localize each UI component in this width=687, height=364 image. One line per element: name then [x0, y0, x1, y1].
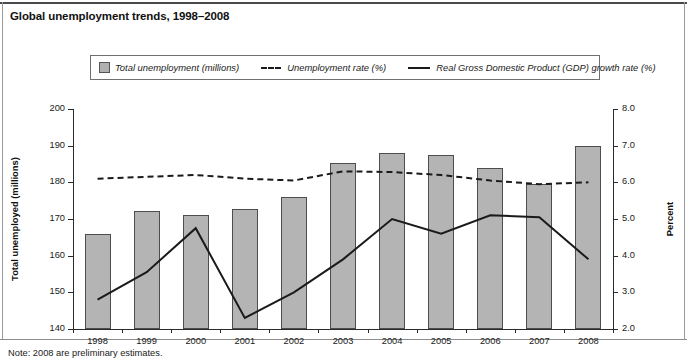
x-tick-mark — [368, 329, 369, 333]
x-tick-mark — [318, 329, 319, 333]
right-tick-label: 6.0 — [622, 176, 635, 186]
x-tick-label-2008: 2008 — [578, 336, 599, 346]
left-tick-label: 170 — [49, 213, 65, 223]
right-tick-label: 8.0 — [622, 103, 635, 113]
right-tick-label: 3.0 — [622, 286, 635, 296]
chart-page: Global unemployment trends, 1998–2008 To… — [0, 0, 687, 364]
left-tick-mark — [68, 182, 73, 183]
bar-1999 — [134, 211, 160, 329]
left-tick-label: 190 — [49, 140, 65, 150]
right-tick-mark — [613, 219, 618, 220]
left-tick-mark — [68, 292, 73, 293]
x-tick-label-2002: 2002 — [284, 336, 305, 346]
chart-title: Global unemployment trends, 1998–2008 — [10, 10, 229, 22]
x-tick-mark — [220, 329, 221, 333]
x-tick-label-2004: 2004 — [382, 336, 403, 346]
right-tick-mark — [613, 146, 618, 147]
x-tick-label-2000: 2000 — [185, 336, 206, 346]
x-tick-label-1998: 1998 — [87, 336, 108, 346]
right-border-rule — [684, 2, 685, 339]
bar-2004 — [379, 153, 405, 329]
x-tick-label-2003: 2003 — [333, 336, 354, 346]
bar-2002 — [281, 197, 307, 329]
x-tick-mark — [171, 329, 172, 333]
x-tick-mark — [515, 329, 516, 333]
bar-swatch-icon — [99, 62, 110, 73]
bar-2007 — [526, 184, 552, 329]
legend-label-unemployment-rate: Unemployment rate (%) — [287, 62, 386, 73]
left-tick-label: 160 — [49, 250, 65, 260]
x-tick-mark — [269, 329, 270, 333]
right-tick-label: 7.0 — [622, 140, 635, 150]
left-border-rule — [2, 2, 3, 339]
right-axis-title: Percent — [664, 202, 675, 236]
bar-2008 — [575, 146, 601, 329]
dashed-line-swatch-icon — [261, 67, 281, 69]
bottom-axis-line — [73, 329, 614, 330]
top-border-rule — [0, 2, 687, 4]
bar-2005 — [428, 155, 454, 329]
legend-item-gdp-growth: Real Gross Domestic Product (GDP) growth… — [408, 62, 655, 73]
legend-label-gdp-growth: Real Gross Domestic Product (GDP) growth… — [436, 62, 655, 73]
left-tick-mark — [68, 219, 73, 220]
left-tick-mark — [68, 109, 73, 110]
bar-2006 — [477, 168, 503, 329]
x-tick-label-2007: 2007 — [529, 336, 550, 346]
x-tick-mark — [122, 329, 123, 333]
legend-item-total-unemployment: Total unemployment (millions) — [99, 62, 239, 73]
bar-1998 — [85, 234, 111, 329]
right-tick-mark — [613, 182, 618, 183]
x-tick-label-2001: 2001 — [234, 336, 255, 346]
right-tick-label: 4.0 — [622, 250, 635, 260]
left-tick-label: 150 — [49, 286, 65, 296]
right-tick-mark — [613, 109, 618, 110]
right-tick-label: 5.0 — [622, 213, 635, 223]
x-tick-mark — [466, 329, 467, 333]
x-tick-label-1999: 1999 — [136, 336, 157, 346]
bar-2001 — [232, 209, 258, 329]
x-tick-mark — [564, 329, 565, 333]
legend-label-total-unemployment: Total unemployment (millions) — [115, 62, 239, 73]
bar-2003 — [330, 163, 356, 329]
legend-item-unemployment-rate: Unemployment rate (%) — [261, 62, 386, 73]
left-tick-mark — [68, 146, 73, 147]
left-tick-label: 180 — [49, 176, 65, 186]
left-axis-title: Total unemployed (millions) — [9, 157, 20, 281]
x-tick-label-2005: 2005 — [431, 336, 452, 346]
x-tick-label-2006: 2006 — [480, 336, 501, 346]
solid-line-swatch-icon — [408, 67, 430, 69]
right-tick-mark — [613, 292, 618, 293]
left-tick-mark — [68, 256, 73, 257]
chart-legend: Total unemployment (millions) Unemployme… — [90, 55, 600, 80]
right-tick-label: 2.0 — [622, 323, 635, 333]
x-tick-mark — [613, 329, 614, 333]
left-axis-line — [73, 109, 74, 329]
bar-2000 — [183, 215, 209, 329]
x-tick-mark — [73, 329, 74, 333]
x-tick-mark — [417, 329, 418, 333]
left-tick-label: 140 — [49, 323, 65, 333]
left-tick-label: 200 — [49, 103, 65, 113]
right-tick-mark — [613, 256, 618, 257]
chart-note: Note: 2008 are preliminary estimates. — [8, 348, 163, 358]
